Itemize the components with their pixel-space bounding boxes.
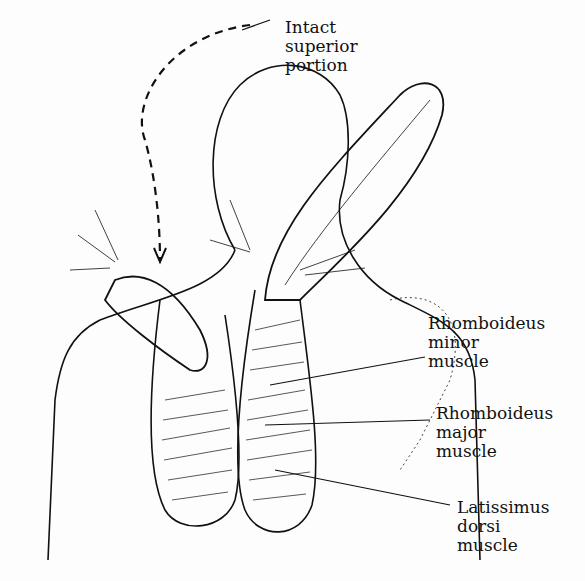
label-line: dorsi (457, 517, 549, 536)
anatomy-illustration (0, 0, 585, 581)
label-latissimus-dorsi: Latissimus dorsi muscle (457, 498, 549, 555)
label-line: muscle (457, 536, 549, 555)
label-rhomboideus-minor: Rhomboideus minor muscle (428, 314, 545, 371)
label-line: minor (428, 333, 545, 352)
label-intact-superior-portion: Intact superior portion (285, 18, 358, 75)
leader-major (265, 420, 430, 425)
leader-minor (270, 357, 425, 385)
head-outline (213, 65, 348, 250)
label-line: Rhomboideus (428, 314, 545, 333)
label-line: Rhomboideus (436, 404, 553, 423)
left-flap (105, 277, 207, 371)
label-line: portion (285, 56, 358, 75)
label-line: Latissimus (457, 498, 549, 517)
label-line: major (436, 423, 553, 442)
label-line: muscle (428, 352, 545, 371)
leader-latissimus (275, 470, 450, 505)
left-shoulder-outline (48, 250, 235, 560)
rotation-arrow (142, 25, 250, 260)
label-line: superior (285, 37, 358, 56)
diagram-canvas: Intact superior portion Rhomboideus mino… (0, 0, 585, 581)
label-line: Intact (285, 18, 358, 37)
label-rhomboideus-major: Rhomboideus major muscle (436, 404, 553, 461)
label-line: muscle (436, 442, 553, 461)
